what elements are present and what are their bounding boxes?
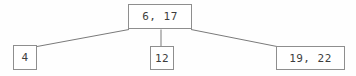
- tree-node-child-2: 19, 22: [276, 46, 345, 70]
- tree-diagram: 6, 17 4 12 19, 22: [0, 0, 356, 76]
- tree-node-child-0-label: 4: [21, 51, 28, 64]
- edge-root-to-child-0: [37, 30, 129, 47]
- tree-node-child-0: 4: [13, 45, 37, 70]
- edge-root-to-child-2: [191, 30, 277, 47]
- tree-node-root: 6, 17: [128, 4, 192, 29]
- tree-node-root-label: 6, 17: [142, 10, 178, 23]
- tree-node-child-2-label: 19, 22: [289, 52, 332, 65]
- tree-node-child-1: 12: [150, 46, 174, 70]
- tree-node-child-1-label: 12: [155, 52, 169, 65]
